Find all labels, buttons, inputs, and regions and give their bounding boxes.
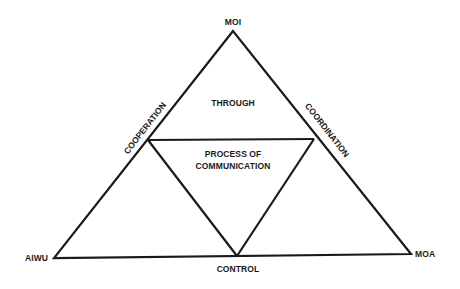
triangle-diagram (0, 0, 460, 289)
vertex-label-moa: MOA (415, 250, 435, 259)
vertex-label-aiwu: AIWU (25, 254, 48, 263)
edge-label-control: CONTROL (217, 265, 260, 274)
midline-horizontal (148, 139, 314, 140)
region-label-through: THROUGH (211, 99, 255, 108)
region-label-process-of: PROCESS OF (205, 150, 262, 159)
region-label-communication: COMMUNICATION (196, 162, 271, 171)
outer-triangle (54, 31, 411, 258)
vertex-label-moi: MOI (225, 18, 241, 27)
